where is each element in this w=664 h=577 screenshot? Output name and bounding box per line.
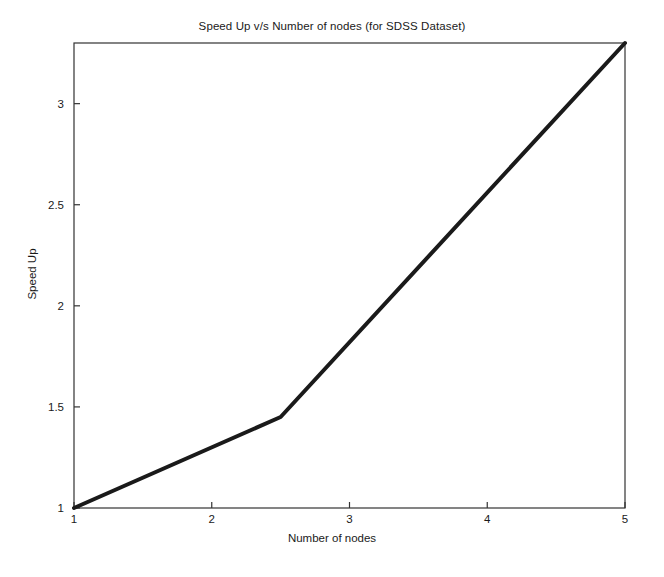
y-axis-label: Speed Up xyxy=(26,214,38,334)
x-axis-label: Number of nodes xyxy=(0,532,664,544)
y-tick-label: 3 xyxy=(18,97,64,111)
plot-area-svg xyxy=(0,0,664,577)
x-axis-ticks xyxy=(74,502,625,508)
x-tick-label: 4 xyxy=(467,513,507,525)
y-axis-ticks xyxy=(74,104,80,508)
y-tick-label: 2 xyxy=(18,299,64,313)
plot-box-border xyxy=(74,43,625,508)
x-tick-label: 5 xyxy=(605,513,645,525)
figure-canvas: Speed Up v/s Number of nodes (for SDSS D… xyxy=(0,0,664,577)
data-series-group xyxy=(74,43,625,508)
x-tick-label: 2 xyxy=(192,513,232,525)
y-tick-label: 1 xyxy=(18,501,64,515)
y-tick-label: 2.5 xyxy=(18,198,64,212)
x-tick-label: 3 xyxy=(330,513,370,525)
y-tick-label: 1.5 xyxy=(18,400,64,414)
data-line xyxy=(74,43,625,508)
